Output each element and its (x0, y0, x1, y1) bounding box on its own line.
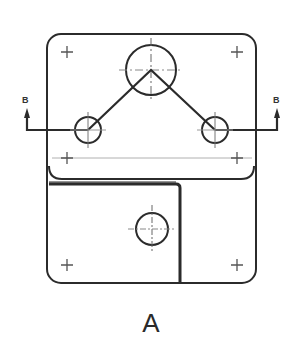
view-label: A (136, 308, 166, 339)
arrow-left-icon (24, 108, 30, 118)
technical-drawing (0, 0, 302, 351)
section-label-right: B (273, 95, 280, 105)
lower-block (49, 184, 180, 283)
bottom-hole (128, 205, 176, 253)
section-path (27, 70, 277, 130)
section-label-left: B (22, 95, 29, 105)
top-plate-edge (49, 166, 254, 179)
arrow-right-icon (274, 108, 280, 118)
